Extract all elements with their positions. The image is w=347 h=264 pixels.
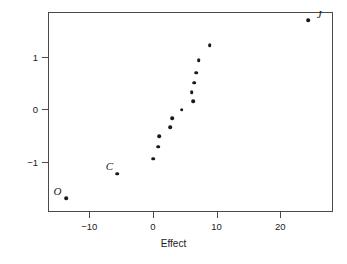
data-point-label: O [53,185,61,197]
data-point-label: C [106,160,113,172]
data-point-label: J [317,8,322,20]
data-point [158,134,162,138]
data-point [208,43,212,47]
data-point [170,117,174,121]
data-point [306,19,310,23]
y-axis-tick-label: 0 [33,104,38,115]
normal-probability-plot-figure: OCJ Normal score Effect −101−1001020 [0,0,347,264]
data-point [194,71,198,75]
data-point [151,157,155,161]
data-point [197,59,201,63]
y-axis-label-container: Normal score [0,12,1,212]
data-point [168,125,172,129]
data-point [116,172,120,176]
x-axis-tick [280,212,281,218]
data-point [191,99,195,103]
x-axis-tick-label: 0 [150,221,155,232]
x-axis-tick-label: 20 [275,221,286,232]
y-axis-tick-label: 1 [33,51,38,62]
x-axis-tick-label: −10 [81,221,97,232]
x-axis-tick [217,212,218,218]
x-axis-label: Effect [0,238,347,249]
data-point [193,81,197,85]
data-point [65,197,69,201]
y-axis-tick [42,109,48,110]
y-axis-tick [42,57,48,58]
x-axis-tick [89,212,90,218]
data-point [190,90,194,94]
data-point [156,145,160,149]
data-point [180,108,184,112]
plot-area: OCJ [48,12,333,212]
y-axis-tick [42,162,48,163]
y-axis-tick-label: −1 [27,157,38,168]
x-axis-tick [153,212,154,218]
x-axis-tick-label: 10 [211,221,222,232]
